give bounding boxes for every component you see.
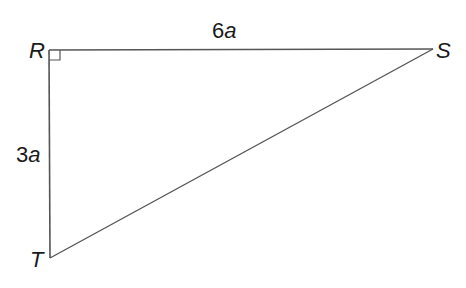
right-angle-marker xyxy=(49,50,60,60)
vertex-label-t: T xyxy=(30,247,45,272)
side-rs-coef: 6 xyxy=(212,18,224,43)
side-rt-var: a xyxy=(28,142,40,167)
side-rs xyxy=(49,49,433,50)
triangle-diagram: R S T 6a 3a xyxy=(0,0,466,288)
vertex-label-r: R xyxy=(29,38,45,63)
side-rt-coef: 3 xyxy=(16,142,28,167)
side-rt xyxy=(49,50,50,258)
side-st xyxy=(50,49,433,258)
vertex-label-s: S xyxy=(436,38,451,63)
side-label-rs: 6a xyxy=(212,18,237,43)
side-rs-var: a xyxy=(224,18,236,43)
triangle xyxy=(49,49,433,258)
side-label-rt: 3a xyxy=(16,142,41,167)
